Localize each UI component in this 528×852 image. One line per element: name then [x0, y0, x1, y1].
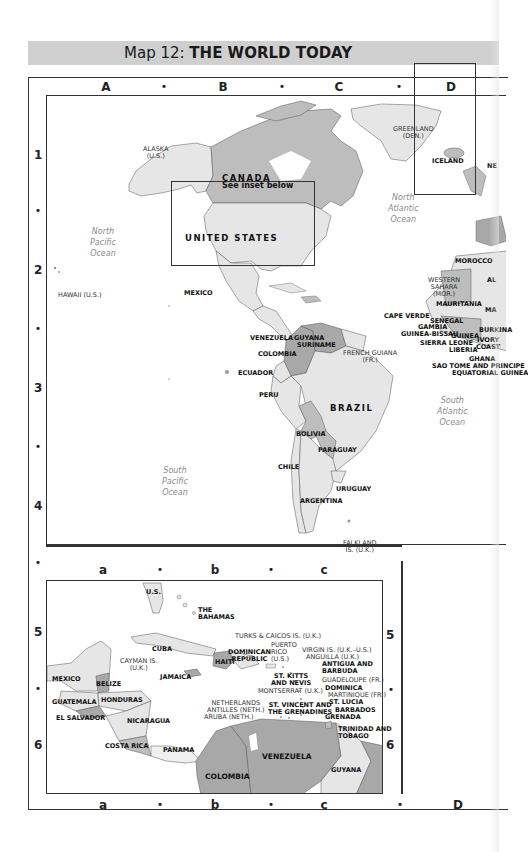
grid-col-B: B — [218, 80, 227, 94]
ocean-south-atlantic: South Atlantic Ocean — [437, 395, 468, 428]
inset-label-cuba: CUBA — [152, 646, 172, 653]
grid-separator: • — [35, 556, 42, 569]
label-morocco: MOROCCO — [455, 258, 493, 265]
inset-label-jamaica: JAMAICA — [160, 674, 191, 681]
inset-label-guatemala: GUATEMALA — [52, 699, 96, 706]
inset-label-cayman: CAYMAN IS. (U.K.) — [120, 658, 158, 672]
ocean-south-pacific: South Pacific Ocean — [162, 465, 188, 498]
grid-separator: • — [268, 563, 275, 576]
grid-separator: • — [161, 80, 168, 93]
inset-label-mexico: MEXICO — [52, 676, 81, 683]
grid-separator: • — [35, 322, 42, 335]
inset-label-st-vincent: ST. VINCENT AND THE GRENADINES — [268, 702, 332, 716]
bottom-col-b: b — [211, 798, 220, 812]
grid-separator: • — [35, 682, 42, 695]
page-title: Map 12: THE WORLD TODAY — [124, 44, 352, 62]
inset-col-b: b — [211, 563, 220, 577]
grid-row-2: 2 — [34, 263, 42, 277]
inset-label-belize: BELIZE — [96, 681, 121, 688]
inset-col-c: c — [320, 563, 327, 577]
inset-col-a: a — [99, 563, 107, 577]
label-chile: CHILE — [278, 464, 299, 471]
inset-label-puerto-rico: PUERTO RICO (U.S.) — [271, 642, 297, 663]
grid-col-C: C — [335, 80, 344, 94]
inset-label-costa-rica: COSTA RICA — [105, 743, 148, 750]
inset-label-nicaragua: NICARAGUA — [127, 718, 170, 725]
grid-row-3: 3 — [34, 381, 42, 395]
label-western-sahara: WESTERN SAHARA (MOR.) — [428, 277, 460, 298]
inset-row-5: 5 — [386, 628, 394, 642]
inset-label-dominican-republic: DOMINICAN REPUBLIC — [228, 649, 271, 663]
title-main: THE WORLD TODAY — [189, 44, 352, 62]
grid-row-1: 1 — [34, 148, 42, 162]
label-suriname: SURINAME — [297, 342, 336, 349]
label-venezuela: VENEZUELA — [250, 335, 293, 342]
inset-label-grenada: GRENADA — [325, 714, 361, 721]
label-french-guiana: FRENCH GUIANA (FR.) — [343, 350, 397, 364]
inset-label-us: U.S. — [146, 589, 161, 596]
label-alaska: ALASKA (U.S.) — [143, 146, 168, 160]
label-canada: CANADA — [222, 175, 271, 182]
grid-col-A: A — [101, 80, 110, 94]
label-uruguay: URUGUAY — [336, 486, 371, 493]
label-united-states: UNITED STATES — [185, 235, 278, 242]
label-paraguay: PARAGUAY — [318, 447, 357, 454]
inset-label-colombia: COLOMBIA — [205, 773, 250, 780]
label-iceland: ICELAND — [432, 158, 464, 165]
ocean-north-atlantic: North Atlantic Ocean — [388, 192, 419, 225]
grid-separator: • — [388, 683, 395, 696]
inset-label-turks-caicos: TURKS & CAICOS IS. (U.K.) — [235, 633, 321, 640]
label-guinea-bissau: GUINEA-BISSAU — [401, 331, 458, 338]
inset-label-antigua: ANTIGUA AND BARBUDA — [322, 661, 373, 675]
label-peru: PERU — [259, 392, 279, 399]
grid-separator: • — [157, 563, 164, 576]
grid-separator: • — [396, 80, 403, 93]
inset-label-el-salvador: EL SALVADOR — [56, 715, 105, 722]
label-cape-verde: CAPE VERDE — [384, 313, 430, 320]
inset-row-6: 6 — [386, 738, 394, 752]
inset-label-panama: PANAMA — [163, 747, 194, 754]
grid-separator: • — [397, 798, 404, 811]
bottom-col-D: D — [453, 798, 463, 812]
inset-outer-right-border — [401, 561, 403, 794]
inset-outer-top-border — [46, 545, 402, 547]
bottom-col-a: a — [99, 798, 107, 812]
grid-separator: • — [279, 80, 286, 93]
grid-row-4: 4 — [34, 499, 42, 513]
caribbean-inset-frame — [171, 181, 315, 266]
grid-separator: • — [35, 204, 42, 217]
inset-label-trinidad: TRINIDAD AND TOBAGO — [338, 726, 392, 740]
grid-row-6: 6 — [34, 738, 42, 752]
bottom-col-c: c — [320, 798, 327, 812]
inset-label-montserrat: MONTSERRAT (U.K.) — [258, 688, 323, 695]
label-greenland: GREENLAND (DEN.) — [393, 126, 434, 140]
inset-label-venezuela: VENEZUELA — [262, 753, 312, 760]
grid-separator: • — [157, 798, 164, 811]
title-prefix: Map 12: — [124, 44, 189, 62]
inset-label-st-lucia: ST. LUCIA — [329, 699, 363, 706]
label-bolivia: BOLIVIA — [296, 431, 326, 438]
inset-label-guyana: GUYANA — [331, 767, 361, 774]
label-hawaii: HAWAII (U.S.) — [58, 292, 102, 299]
inset-label-honduras: HONDURAS — [101, 697, 143, 704]
label-mauritania: MAURITANIA — [436, 301, 482, 308]
label-brazil: BRAZIL — [330, 405, 373, 412]
label-falkland: FALKLAND IS. (U.K.) — [343, 540, 377, 554]
inset-label-bahamas: THE BAHAMAS — [198, 607, 235, 621]
label-mexico: MEXICO — [184, 290, 213, 297]
grid-separator: • — [268, 798, 275, 811]
page-edge-shadow — [489, 0, 499, 852]
ocean-north-pacific: North Pacific Ocean — [90, 226, 116, 259]
grid-separator: • — [35, 440, 42, 453]
inset-label-st-kitts: ST. KITTS AND NEVIS — [271, 673, 311, 687]
label-ecuador: ECUADOR — [238, 370, 273, 377]
inset-label-netherlands-antilles: NETHERLANDS ANTILLES (NETH.) — [207, 700, 265, 714]
inset-label-aruba: ARUBA (NETH.) — [204, 714, 254, 721]
inset-label-guadeloupe: GUADELOUPE (FR.) — [322, 677, 384, 684]
label-liberia: LIBERIA — [449, 347, 477, 354]
grid-row-5: 5 — [34, 625, 42, 639]
label-colombia: COLOMBIA — [258, 351, 297, 358]
label-argentina: ARGENTINA — [300, 498, 343, 505]
